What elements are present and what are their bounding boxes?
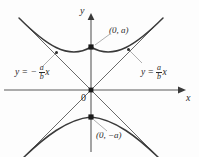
- asymptote-left-prefix: y = −: [15, 68, 37, 78]
- vertex-bottom-label: (0, −a): [96, 131, 122, 140]
- x-axis-label: x: [186, 93, 190, 103]
- vertex-top-marker: [88, 44, 93, 49]
- origin-label: 0: [81, 93, 86, 103]
- y-axis: [88, 13, 95, 152]
- asymptote-left-denominator: b: [39, 72, 45, 81]
- leader-vertex-top: [95, 34, 110, 45]
- vertex-top-label: (0, a): [109, 26, 129, 35]
- hyperbola-figure: y x 0 (0, a) (0, −a) y = − a b x y = a b…: [0, 0, 199, 157]
- leader-dot-right: [127, 48, 130, 51]
- asymptote-right-fraction: a b: [156, 64, 162, 82]
- asymptote-right-prefix: y =: [141, 68, 154, 78]
- origin-marker: [89, 88, 94, 93]
- asymptote-right-denominator: b: [156, 72, 162, 81]
- asymptote-left-equation: y = − a b x: [15, 64, 50, 82]
- asymptote-left-fraction: a b: [39, 64, 45, 82]
- x-axis: [4, 87, 186, 94]
- asymptote-right-suffix: x: [163, 68, 167, 78]
- y-axis-label: y: [80, 6, 84, 16]
- asymptote-left-numerator: a: [39, 64, 45, 72]
- leader-dot-left: [55, 51, 58, 54]
- asymptote-left-suffix: x: [45, 68, 49, 78]
- asymptote-right-equation: y = a b x: [141, 64, 167, 82]
- leader-asymptote-right: [129, 50, 142, 63]
- vertex-bottom-marker: [88, 114, 93, 119]
- asymptote-right-numerator: a: [156, 64, 162, 72]
